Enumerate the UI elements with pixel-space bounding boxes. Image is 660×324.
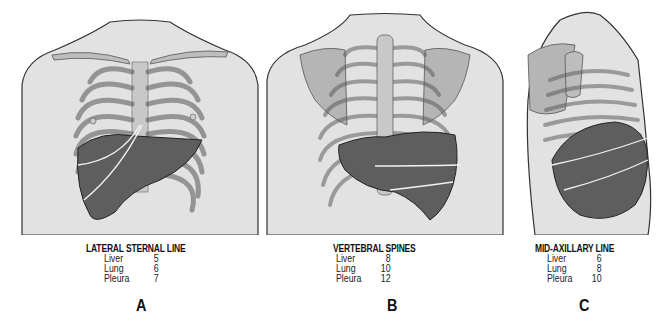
- rib-value: 10: [586, 274, 602, 284]
- lateral-thorax-illustration: [520, 0, 660, 235]
- posterior-thorax-illustration: [265, 0, 505, 235]
- panel-b: VERTEBRAL SPINES Liver8 Lung10 Pleura12 …: [265, 0, 505, 235]
- caption-a: LATERAL STERNAL LINE Liver5 Lung6 Pleura…: [86, 243, 203, 284]
- organ-label: Pleura: [547, 274, 586, 284]
- caption-b: VERTEBRAL SPINES Liver8 Lung10 Pleura12: [333, 243, 430, 284]
- rib-value: 7: [143, 274, 159, 284]
- caption-title: LATERAL STERNAL LINE: [86, 243, 186, 254]
- organ-label: Pleura: [104, 274, 143, 284]
- caption-c: MID-AXILLARY LINE Liver6 Lung8 Pleura10: [535, 243, 628, 284]
- panel-c: MID-AXILLARY LINE Liver6 Lung8 Pleura10 …: [520, 0, 660, 235]
- panel-letter-a: A: [136, 296, 146, 316]
- panel-letter-c: C: [579, 296, 589, 316]
- anterior-thorax-illustration: [20, 0, 260, 235]
- panel-a: LATERAL STERNAL LINE Liver5 Lung6 Pleura…: [20, 0, 260, 235]
- measurement-row: Pleura12: [336, 274, 419, 284]
- measurement-row: Pleura7: [104, 274, 191, 284]
- rib-value: 12: [375, 274, 391, 284]
- panel-letter-b: B: [387, 296, 397, 316]
- organ-label: Pleura: [336, 274, 375, 284]
- measurement-row: Pleura10: [547, 274, 619, 284]
